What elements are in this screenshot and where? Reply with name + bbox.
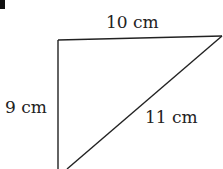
side-hypotenuse xyxy=(67,36,222,169)
label-hypotenuse: 11 cm xyxy=(145,109,198,126)
label-top-side: 10 cm xyxy=(106,14,159,31)
label-left-side: 9 cm xyxy=(5,99,47,116)
side-top xyxy=(58,36,222,40)
